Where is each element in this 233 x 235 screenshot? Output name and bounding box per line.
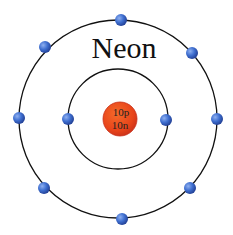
electron-icon [186, 47, 198, 59]
electron-icon [211, 113, 223, 125]
protons-label: 10p [113, 106, 130, 118]
electron-icon [184, 182, 196, 194]
electron-icon [115, 14, 127, 26]
electron-icon [160, 114, 172, 126]
electron-icon [62, 113, 74, 125]
element-title: Neon [92, 31, 157, 64]
electron-icon [38, 182, 50, 194]
neon-atom-diagram: Neon 10p 10n [0, 0, 233, 235]
electron-icon [116, 213, 128, 225]
neutrons-label: 10n [112, 119, 129, 131]
electron-icon [39, 41, 51, 53]
nucleus: 10p 10n [103, 102, 137, 136]
electron-icon [13, 112, 25, 124]
